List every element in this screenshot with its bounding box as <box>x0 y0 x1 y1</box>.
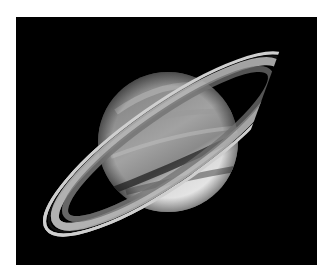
saturn-photo <box>16 17 317 265</box>
saturn-illustration <box>16 17 317 265</box>
